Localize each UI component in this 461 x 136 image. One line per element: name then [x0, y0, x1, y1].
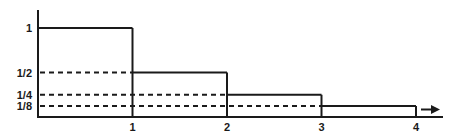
x-tick-label: 3 [318, 121, 324, 133]
x-tick-label: 1 [129, 121, 135, 133]
continuation-arrow-head [431, 105, 440, 114]
x-tick-label: 4 [413, 121, 420, 133]
step-function-chart: 11/21/41/81234 [0, 0, 461, 136]
y-tick-label: 1/8 [17, 100, 32, 112]
y-tick-label: 1 [26, 22, 32, 34]
step-function-figure: 11/21/41/81234 [0, 0, 461, 136]
x-tick-label: 2 [224, 121, 230, 133]
y-tick-label: 1/2 [17, 67, 32, 79]
